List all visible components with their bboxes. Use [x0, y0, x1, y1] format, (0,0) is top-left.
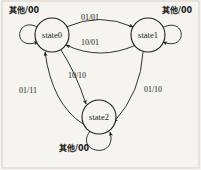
node-state0[interactable]: state0: [35, 18, 69, 52]
transition-state2-to-state0: [45, 52, 83, 124]
transition-state1-to-state2: [114, 52, 143, 122]
transition-label-state1-to-state2: 01/10: [144, 85, 162, 94]
node-state1[interactable]: state1: [131, 18, 165, 52]
state1-label: state1: [138, 30, 158, 40]
transition-label-state0-to-state1: 01/01: [81, 13, 99, 22]
self-loop-label-state2: 其他/00: [59, 143, 89, 153]
transition-state0-to-state1: [66, 20, 133, 28]
state0-label: state0: [42, 30, 62, 40]
self-loop-label-state0: 其他/00: [9, 5, 39, 15]
state-diagram: state0 state1 state2 01/01 10/01 10/10 0…: [0, 0, 201, 170]
transition-label-state2-to-state0: 01/11: [19, 86, 37, 95]
transition-label-state1-to-state0: 10/01: [81, 38, 99, 47]
transition-label-state0-to-state2: 10/10: [68, 71, 86, 80]
state-diagram-canvas: state0 state1 state2 01/01 10/01 10/10 0…: [0, 0, 201, 170]
transition-state1-to-state0: [66, 45, 136, 53]
node-state2[interactable]: state2: [82, 100, 116, 134]
state2-label: state2: [89, 112, 109, 122]
self-loop-label-state1: 其他/00: [162, 5, 192, 15]
